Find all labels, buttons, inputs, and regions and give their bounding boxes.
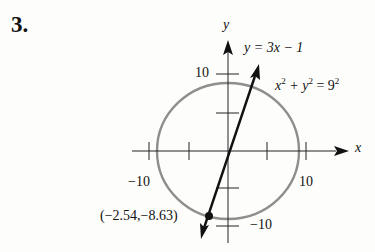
y-axis-label: y: [223, 17, 229, 33]
tick-label-y-10: 10: [195, 65, 209, 81]
tick-label-x-neg10: −10: [128, 174, 150, 190]
line-curve: [204, 76, 255, 228]
circle-equation-label: x2 + y2 = 92: [275, 76, 339, 94]
plot-canvas: [0, 0, 375, 252]
x-axis-arrow-icon: [334, 146, 349, 156]
x-axis-label: x: [355, 140, 361, 156]
intersection-point: [205, 212, 213, 220]
tick-label-y-neg10: −10: [250, 217, 272, 233]
line-equation-label: y = 3x − 1: [244, 40, 303, 56]
intersection-point-label: (−2.54,−8.63): [100, 208, 178, 224]
tick-label-x-10: 10: [299, 174, 313, 190]
